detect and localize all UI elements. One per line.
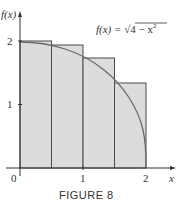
x-axis-label: x — [168, 172, 174, 184]
y-axis-label: f(x) — [1, 8, 17, 21]
riemann-sum-figure: f(x) x 0 1 2 1 2 f(x) = √4 − x2 FIGURE 8 — [0, 0, 179, 203]
x-tick-label-2: 2 — [143, 172, 149, 184]
origin-label: 0 — [11, 172, 17, 184]
function-label-lhs: f(x) = — [96, 23, 124, 36]
y-tick-label-2: 2 — [7, 35, 13, 47]
radicand: 4 − x — [130, 23, 153, 35]
approximating-rectangles — [20, 41, 146, 168]
rectangle-2 — [52, 45, 84, 168]
x-axis-arrow-icon — [170, 166, 176, 170]
figure-caption: FIGURE 8 — [59, 189, 114, 201]
y-tick-label-1: 1 — [7, 98, 13, 110]
x-tick-label-1: 1 — [80, 172, 86, 184]
y-axis-arrow-icon — [18, 11, 22, 17]
function-label: f(x) = √4 − x2 — [96, 22, 167, 36]
svg-text:f(x) = √4 − x2: f(x) = √4 − x2 — [96, 22, 157, 36]
rectangle-1 — [20, 41, 52, 168]
